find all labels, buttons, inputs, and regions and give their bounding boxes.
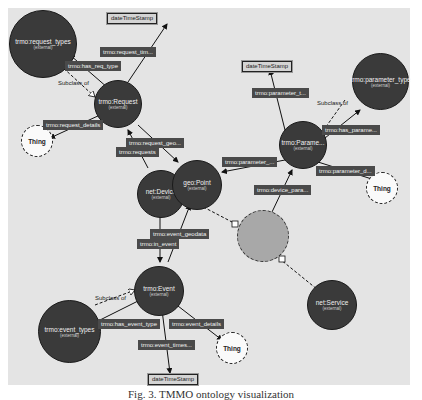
property-label[interactable]: trmo:requests xyxy=(116,147,159,157)
datatype-node[interactable]: dateTimeStamp xyxy=(242,61,292,72)
figure-caption: Fig. 3. TMMO ontology visualization xyxy=(0,388,422,400)
node-label: trmo:event_types xyxy=(45,326,95,333)
subclass-label: Subclass of xyxy=(317,100,348,106)
node-event-types[interactable]: trmo:event_types (external) xyxy=(38,300,101,363)
node-label: trmo:request_types xyxy=(15,38,71,45)
node-sublabel: (external) xyxy=(108,105,127,110)
node-label: trmo:Parame... xyxy=(282,139,325,146)
node-parameter-type[interactable]: trmo:parameter_type (external) xyxy=(352,53,409,110)
node-sublabel: (external) xyxy=(33,45,52,50)
property-label[interactable]: trmo:event_times... xyxy=(138,340,195,350)
node-label: net:Service xyxy=(316,299,349,306)
node-parameter[interactable]: trmo:Parame... (external) xyxy=(279,121,327,169)
property-label[interactable]: trmo:parameter_... xyxy=(222,157,277,167)
node-service[interactable]: net:Service (external) xyxy=(307,280,357,330)
node-label: trmo:Request xyxy=(98,98,137,105)
property-label[interactable]: trmo:parameter_d... xyxy=(316,166,375,176)
subclass-label: Subclass of xyxy=(58,80,89,86)
node-sublabel: (external) xyxy=(60,333,79,338)
node-sublabel: (external) xyxy=(149,292,168,297)
thing-node[interactable]: Thing xyxy=(216,332,248,364)
property-label[interactable]: trmo:device_para... xyxy=(254,185,311,195)
property-label[interactable]: trmo:event_geodata xyxy=(150,229,209,239)
thing-node[interactable]: Thing xyxy=(366,172,398,204)
node-label: trmo:parameter_type xyxy=(350,76,410,83)
node-sublabel: (external) xyxy=(322,306,341,311)
node-sublabel: (external) xyxy=(151,195,170,200)
property-label[interactable]: trmo:parameter_t... xyxy=(252,88,309,98)
node-label: geo:Point xyxy=(183,179,210,186)
node-label: trmo:Event xyxy=(143,285,174,292)
node-sublabel: (external) xyxy=(371,83,390,88)
property-label[interactable]: trmo:event_details xyxy=(169,319,224,329)
node-event[interactable]: trmo:Event (external) xyxy=(134,266,184,316)
datatype-node[interactable]: dateTimeStamp xyxy=(148,374,198,385)
property-label[interactable]: trmo:request_details xyxy=(43,120,103,130)
subclass-label: Subclass of xyxy=(95,295,126,301)
property-label[interactable]: trmo:request_tim... xyxy=(100,47,156,57)
property-label[interactable]: trmo:has_event_type xyxy=(98,319,160,329)
node-sublabel: (external) xyxy=(293,146,312,151)
node-geopoint[interactable]: geo:Point (external) xyxy=(172,160,222,210)
anonymous-class-node[interactable] xyxy=(237,210,289,262)
property-label[interactable]: trmo:has_req_type xyxy=(65,61,121,71)
datatype-node[interactable]: dateTimeStamp xyxy=(107,13,157,24)
node-sublabel: (external) xyxy=(187,186,206,191)
property-label[interactable]: trmo:in_event xyxy=(137,239,179,249)
property-label[interactable]: trmo:has_parame... xyxy=(322,125,380,135)
